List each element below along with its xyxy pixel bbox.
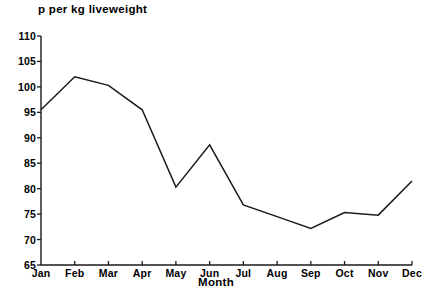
chart-plot-area — [0, 0, 432, 300]
data-series-line — [41, 77, 412, 229]
line-chart: p per kg liveweight 65707580859095100105… — [0, 0, 432, 300]
x-axis-title: Month — [0, 276, 432, 288]
axes-group — [41, 36, 412, 265]
